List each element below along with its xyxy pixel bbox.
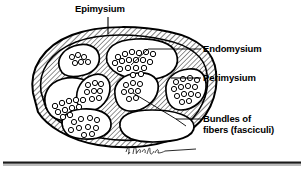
label-epimysium: Epimysium [75,4,125,15]
muscle-fiber [98,81,103,86]
muscle-fiber [125,65,130,70]
muscle-fiber [137,81,142,86]
muscle-fiber [136,50,141,55]
label-endomysium: Endomysium [203,44,262,55]
muscle-fiber [178,84,183,89]
muscle-fiber [87,115,92,120]
muscle-fiber [69,54,74,59]
label-bundles-of-fibers: Bundles offibers (fasciculi) [203,114,274,135]
muscle-fiber [85,59,90,64]
muscle-fiber [180,76,185,81]
muscle-fiber [171,86,176,91]
muscle-fiber [85,124,90,129]
muscle-fiber [126,57,131,62]
muscle-fiber [66,98,71,103]
muscle-fiber [140,57,145,62]
muscle-fiber [117,66,122,71]
label-bundles-line1: Bundles of [203,113,251,124]
muscle-fiber [55,109,60,114]
footer-rule [3,162,301,166]
muscle-fiber [147,59,152,64]
muscle-fiber [76,125,81,130]
muscle-fiber [133,65,138,70]
muscle-fiber [81,54,86,59]
muscle-fiber [179,99,184,104]
muscle-fiber [52,103,57,108]
muscle-fiber [174,93,179,98]
muscle-fiber [68,127,73,132]
muscle-fiber [73,97,78,102]
muscle-fiber [85,82,90,87]
muscle-fiber [121,89,126,94]
muscle-fiber [80,97,85,102]
muscle-cross-section-figure [0,0,304,173]
drawing-canvas [3,17,301,165]
fascicle [120,110,194,142]
muscle-fiber [69,105,74,110]
muscle-fiber [62,107,67,112]
muscle-fiber [119,58,124,63]
muscle-fiber [93,125,98,130]
label-bundles-line2: fibers (fasciculi) [203,124,274,135]
muscle-fiber [188,91,193,96]
muscle-fiber [185,83,190,88]
muscle-fiber [78,59,83,64]
muscle-fiber [89,96,94,101]
muscle-fiber [123,82,128,87]
muscle-fiber [72,60,77,65]
muscle-fiber [141,65,146,70]
muscle-fiber [81,132,86,137]
muscle-fiber [84,89,89,94]
muscle-fiber [97,88,102,93]
muscle-fiber [135,88,140,93]
muscle-fiber [181,91,186,96]
muscle-fiber [78,116,83,121]
muscle-fiber [138,71,143,76]
muscle-fiber [192,84,197,89]
muscle-fiber [195,92,200,97]
muscle-fiber [129,49,134,54]
muscle-fiber [186,98,191,103]
muscle-fiber [143,49,148,54]
muscle-fiber [71,119,76,124]
muscle-fiber [75,52,80,57]
muscle-fiber [130,80,135,85]
muscle-fiber [122,51,127,56]
muscle-fiber [130,72,135,77]
muscle-fiber [89,131,94,136]
muscle-fiber [126,96,131,101]
muscle-fiber [91,88,96,93]
label-perimysium: Perimysium [203,73,256,84]
muscle-fiber [92,80,97,85]
muscle-fiber [59,100,64,105]
muscle-fiber [76,104,81,109]
muscle-fiber [60,114,65,119]
muscle-fiber [94,117,99,122]
muscle-fiber [128,88,133,93]
muscle-fiber [173,79,178,84]
muscle-fiber [67,112,72,117]
muscle-fiber [96,95,101,100]
muscle-fiber [150,51,155,56]
muscle-fiber [112,60,117,65]
